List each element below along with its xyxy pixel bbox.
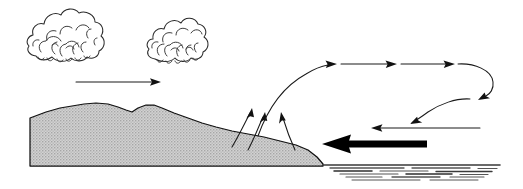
cumulus-cloud-right bbox=[147, 18, 208, 63]
land-level-horizontal-arrow bbox=[76, 78, 161, 85]
sea-breeze-thick-arrow[interactable] bbox=[322, 135, 427, 154]
land-mass-shape bbox=[30, 103, 323, 166]
land-terrain bbox=[30, 103, 323, 166]
subsidence-shaft bbox=[418, 99, 470, 119]
sea-breeze-circulation-diagram bbox=[0, 0, 523, 189]
diagram-canvas bbox=[0, 0, 523, 189]
sea-breeze-arrow-head bbox=[322, 135, 351, 154]
outflow-head-1 bbox=[326, 61, 338, 68]
updraft-right-head bbox=[279, 112, 286, 124]
sea-breeze-arrow-bar bbox=[345, 141, 427, 148]
return-flow-arrow-thin bbox=[371, 124, 480, 131]
cumulus-cloud-left bbox=[27, 9, 104, 62]
hook-shaft bbox=[458, 64, 493, 96]
descending-hook-arrow-right-edge bbox=[458, 64, 493, 100]
updraft-left-head bbox=[246, 108, 254, 118]
outflow-rising-limb bbox=[258, 65, 328, 136]
upper-level-outflow-arrow bbox=[258, 61, 455, 136]
sea-water-surface bbox=[323, 165, 500, 180]
hook-head bbox=[478, 93, 490, 100]
cloud-left-outline bbox=[27, 9, 104, 61]
subsidence-arrow-over-sea bbox=[410, 99, 470, 124]
